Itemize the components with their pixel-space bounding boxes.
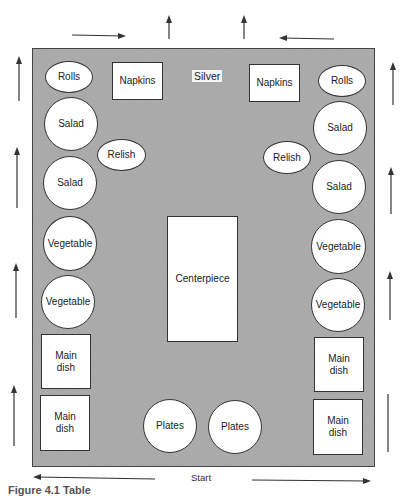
right-arrow-up-icon [384, 270, 396, 322]
centerpiece: Centerpiece [167, 216, 238, 342]
top-arrow-up-icon [238, 14, 250, 40]
salad-left-2-label: Salad [57, 177, 83, 189]
main-dish-right-1-line1: Main [328, 353, 350, 364]
main-dish-right-1-line2: dish [330, 365, 348, 376]
top-right-arrow-left-icon [276, 32, 336, 44]
salad-right-2: Salad [312, 160, 366, 214]
vegetable-right-2: Vegetable [311, 278, 365, 332]
vegetable-left-2-label: Vegetable [46, 296, 91, 308]
right-arrow-up-icon [385, 166, 397, 216]
salad-right-1-label: Salad [327, 122, 353, 134]
salad-right-1: Salad [313, 101, 367, 155]
vegetable-left-2: Vegetable [41, 275, 95, 329]
main-dish-left-2-line2: dish [56, 423, 74, 434]
vegetable-right-1: Vegetable [311, 219, 366, 274]
relish-right: Relish [263, 141, 311, 174]
relish-left-label: Relish [108, 149, 136, 161]
salad-left-2: Salad [43, 156, 97, 210]
rolls-right: Rolls [318, 65, 366, 97]
left-arrow-up-icon [8, 384, 20, 448]
left-arrow-up-icon [10, 262, 22, 320]
plates-right-label: Plates [221, 421, 249, 433]
rolls-left-label: Rolls [58, 71, 80, 83]
silver-label: Silver [192, 70, 222, 82]
napkins-left: Napkins [112, 62, 163, 100]
bottom-arrow-right-icon [250, 475, 375, 487]
main-dish-left-1: Maindish [41, 334, 91, 389]
main-dish-right-1: Maindish [314, 337, 364, 392]
vegetable-right-2-label: Vegetable [316, 299, 361, 311]
top-left-arrow-right-icon [70, 28, 130, 40]
main-dish-left-1-line2: dish [57, 362, 75, 373]
plates-left: Plates [143, 399, 197, 453]
figure-caption: Figure 4.1 Table [8, 484, 91, 496]
right-line-segment [382, 392, 394, 454]
plates-left-label: Plates [156, 420, 184, 432]
relish-right-label: Relish [273, 152, 301, 164]
salad-right-2-label: Salad [326, 181, 352, 193]
plates-right: Plates [208, 400, 262, 454]
main-dish-left-2-line1: Main [54, 411, 76, 422]
salad-left-1: Salad [44, 97, 98, 151]
main-dish-left-2: Maindish [40, 395, 90, 451]
salad-left-1-label: Salad [58, 118, 84, 130]
main-dish-left-1-label: Maindish [55, 350, 77, 374]
main-dish-right-2-line1: Main [327, 415, 349, 426]
vegetable-right-1-label: Vegetable [316, 241, 361, 253]
right-arrow-up-icon [387, 61, 399, 107]
vegetable-left-1-label: Vegetable [48, 238, 93, 250]
left-arrow-up-icon [13, 55, 25, 103]
main-dish-right-2: Maindish [313, 399, 363, 455]
rolls-right-label: Rolls [331, 75, 353, 87]
main-dish-left-1-line1: Main [55, 350, 77, 361]
relish-left: Relish [97, 139, 146, 171]
napkins-right: Napkins [249, 64, 300, 102]
rolls-left: Rolls [45, 61, 93, 93]
bottom-arrow-left-icon [30, 472, 158, 484]
napkins-left-label: Napkins [119, 75, 155, 87]
vegetable-left-1: Vegetable [43, 216, 97, 271]
napkins-right-label: Napkins [256, 77, 292, 89]
main-dish-right-2-line2: dish [329, 427, 347, 438]
left-arrow-up-icon [11, 146, 23, 210]
main-dish-right-1-label: Maindish [328, 353, 350, 377]
main-dish-right-2-label: Maindish [327, 415, 349, 439]
start-label: Start [191, 472, 211, 483]
centerpiece-label: Centerpiece [176, 273, 230, 285]
top-arrow-up-icon [163, 14, 175, 40]
main-dish-left-2-label: Maindish [54, 411, 76, 435]
